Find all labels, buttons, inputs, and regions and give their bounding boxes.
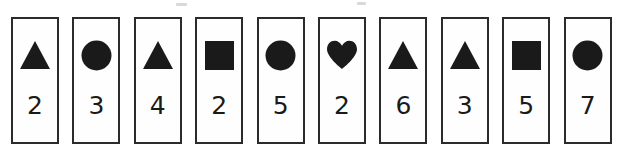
card[interactable]: 2 <box>318 17 366 144</box>
card-number: 4 <box>150 93 166 118</box>
card-number: 2 <box>27 93 43 118</box>
card-number: 7 <box>580 93 596 118</box>
card[interactable]: 3 <box>72 17 120 144</box>
card-strip: 2342526357 <box>0 0 622 154</box>
square-icon <box>197 19 241 91</box>
card[interactable]: 6 <box>379 17 427 144</box>
card[interactable]: 5 <box>502 17 550 144</box>
square-icon <box>504 19 548 91</box>
card-number: 5 <box>273 93 289 118</box>
circle-icon <box>74 19 118 91</box>
triangle-icon <box>136 19 180 91</box>
circle-icon <box>259 19 303 91</box>
card-number: 2 <box>211 93 227 118</box>
triangle-icon <box>443 19 487 91</box>
card[interactable]: 2 <box>195 17 243 144</box>
card[interactable]: 4 <box>134 17 182 144</box>
scan-artifact <box>357 2 366 5</box>
card-number: 2 <box>334 93 350 118</box>
card[interactable]: 5 <box>257 17 305 144</box>
card-number: 5 <box>518 93 534 118</box>
card[interactable]: 3 <box>441 17 489 144</box>
card[interactable]: 2 <box>11 17 59 144</box>
triangle-icon <box>381 19 425 91</box>
card[interactable]: 7 <box>564 17 612 144</box>
scan-artifact <box>176 3 187 6</box>
card-number: 3 <box>88 93 104 118</box>
card-number: 6 <box>395 93 411 118</box>
triangle-icon <box>13 19 57 91</box>
card-number: 3 <box>457 93 473 118</box>
circle-icon <box>566 19 610 91</box>
heart-icon <box>320 19 364 91</box>
